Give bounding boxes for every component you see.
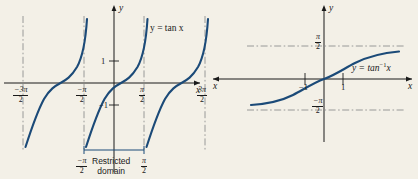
arctangent-graph-svg (209, 0, 418, 179)
fraction-denominator: 2 (80, 167, 84, 176)
restricted-domain-text: Restricted domain (92, 157, 130, 177)
fraction-denominator: 2 (316, 43, 320, 52)
y-axis-arrow (112, 5, 117, 11)
asymptote-label-neg-pi-over-2: −π 2 (312, 97, 323, 116)
restricted-domain-text-line2: domain (97, 166, 125, 176)
x-tick-label-neg1: −1 (299, 83, 308, 92)
x-axis (213, 77, 412, 82)
y-axis-arrow (322, 5, 327, 11)
fraction-denominator: 2 (200, 96, 204, 105)
arctangent-function-label: y = tan−1x (352, 62, 391, 74)
y-axis (322, 5, 327, 142)
fraction-denominator: 2 (80, 96, 84, 105)
restricted-domain-right-endpoint: π 2 (141, 157, 147, 176)
y-tick-label-1: 1 (101, 57, 105, 66)
tangent-graph-panel: y x y = tan x 1 −1 −3π 2 −π 2 π 2 3π 2 −… (0, 0, 209, 179)
y-axis-label: y (329, 4, 333, 14)
figure-container: y x y = tan x 1 −1 −3π 2 −π 2 π 2 3π 2 −… (0, 0, 418, 179)
fraction-denominator: 2 (316, 107, 320, 116)
function-label-argument: x (386, 63, 390, 73)
tangent-function-label: y = tan x (150, 24, 184, 34)
x-axis-label: x (408, 82, 412, 92)
x-tick-label-1: 1 (341, 83, 345, 92)
x-tick-label-3pi-over-2: 3π 2 (197, 86, 207, 105)
x-tick-label-neg-3pi-over-2: −3π 2 (13, 86, 28, 105)
restricted-domain-left-endpoint: −π 2 (76, 157, 87, 176)
y-tick-label-neg1: −1 (99, 101, 108, 110)
fraction-denominator: 2 (19, 96, 23, 105)
fraction-denominator: 2 (142, 167, 146, 176)
arctangent-graph-panel: y x x y = tan−1x −1 1 π 2 −π 2 (209, 0, 418, 179)
restricted-domain-text-line1: Restricted (92, 156, 130, 166)
x-axis-label-left: x (213, 82, 217, 92)
x-tick-label-neg-pi-over-2: −π 2 (76, 86, 87, 105)
function-label-base: y = tan (352, 63, 380, 73)
asymptote-label-pi-over-2: π 2 (315, 33, 321, 52)
x-axis (4, 81, 200, 86)
arctangent-curve (251, 52, 399, 106)
fraction-denominator: 2 (140, 96, 144, 105)
x-tick-label-pi-over-2: π 2 (139, 86, 145, 105)
y-axis-label: y (119, 4, 123, 14)
